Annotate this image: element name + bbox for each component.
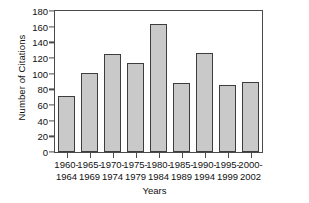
x-tick-label-line: 2002 bbox=[229, 171, 273, 183]
y-tick-mark bbox=[49, 120, 54, 121]
bar bbox=[196, 53, 212, 152]
x-tick-mark bbox=[67, 153, 68, 158]
bar bbox=[127, 63, 143, 152]
y-tick-label: 60 bbox=[14, 100, 48, 111]
x-tick-mark bbox=[113, 153, 114, 158]
bar bbox=[58, 96, 74, 152]
x-tick-mark bbox=[136, 153, 137, 158]
x-tick-mark bbox=[205, 153, 206, 158]
bar bbox=[219, 85, 235, 152]
citations-bar-chart: Number of Citations 02040608010012014016… bbox=[0, 0, 309, 203]
bar bbox=[104, 54, 120, 152]
x-tick-mark bbox=[228, 153, 229, 158]
y-tick-label: 140 bbox=[14, 37, 48, 48]
y-tick-label: 180 bbox=[14, 6, 48, 17]
x-axis-title: Years bbox=[0, 185, 309, 196]
bar bbox=[173, 83, 189, 152]
y-tick-mark bbox=[49, 57, 54, 58]
y-tick-label: 40 bbox=[14, 115, 48, 126]
y-tick-label: 160 bbox=[14, 21, 48, 32]
x-tick-label: 2000-2002 bbox=[229, 159, 273, 182]
y-tick-mark bbox=[49, 136, 54, 137]
y-tick-mark bbox=[49, 104, 54, 105]
bar bbox=[81, 73, 97, 152]
x-tick-mark bbox=[90, 153, 91, 158]
y-tick-mark bbox=[49, 26, 54, 27]
x-tick-label-line: 2000- bbox=[229, 159, 273, 171]
bar bbox=[242, 82, 258, 153]
bar-series bbox=[55, 11, 262, 152]
y-tick-mark bbox=[49, 10, 54, 11]
x-tick-mark bbox=[182, 153, 183, 158]
y-tick-mark bbox=[49, 42, 54, 43]
y-tick-mark bbox=[49, 89, 54, 90]
y-tick-mark bbox=[49, 151, 54, 152]
bar bbox=[150, 24, 166, 152]
y-tick-label: 20 bbox=[14, 131, 48, 142]
y-tick-label: 120 bbox=[14, 53, 48, 64]
x-tick-mark bbox=[251, 153, 252, 158]
y-tick-label: 0 bbox=[14, 147, 48, 158]
x-tick-mark bbox=[159, 153, 160, 158]
y-tick-mark bbox=[49, 73, 54, 74]
y-tick-label: 80 bbox=[14, 84, 48, 95]
y-tick-label: 100 bbox=[14, 68, 48, 79]
